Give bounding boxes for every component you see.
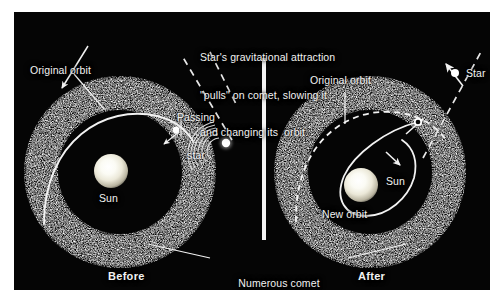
astronomy-diagram: Star's gravitational attraction "pulls" … [14, 12, 490, 290]
sun-after [344, 168, 378, 202]
after-panel-caption: After [358, 270, 385, 283]
after-new-orbit-label: New orbit [322, 208, 367, 221]
new-orbit-group [340, 119, 423, 216]
star-after [451, 69, 459, 77]
after-star-label: Star [466, 67, 486, 80]
before-passing-star-line-1: Passing [166, 111, 226, 124]
after-original-orbit-label: Original orbit [310, 74, 371, 87]
new-orbit-arrow-in [386, 152, 400, 165]
before-sun-label: Sun [99, 192, 118, 205]
before-passing-star-line-2: star [166, 149, 226, 162]
before-panel-caption: Before [108, 270, 145, 283]
comet-after [415, 119, 421, 125]
bottom-caption-line-1: Numerous comet [210, 277, 348, 290]
before-passing-star-label: Passing star [166, 86, 226, 186]
after-sun-label: Sun [386, 175, 405, 188]
top-caption-line-1: Star's gravitational attraction [200, 51, 335, 64]
figure-root: Star's gravitational attraction "pulls" … [0, 0, 502, 302]
before-original-orbit-label: Original orbit [30, 64, 91, 77]
bottom-caption: Numerous comet nuclei in the Oort cloud [210, 252, 348, 290]
sun-before [94, 154, 128, 188]
